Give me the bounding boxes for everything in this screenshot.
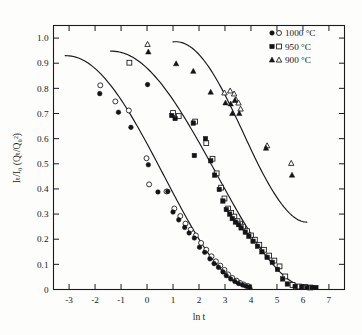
- data-point-950C-filled-4: [203, 136, 207, 140]
- data-point-1000C-filled-1: [116, 110, 121, 115]
- y-tick-label-1: 0.1: [37, 260, 49, 270]
- data-point-1000C-filled-15: [212, 261, 217, 266]
- data-point-950C-filled-19: [260, 250, 264, 254]
- data-point-950C-filled-26: [299, 285, 303, 289]
- y-tick-label-0: 0: [44, 285, 49, 295]
- data-point-1000C-filled-legend: [270, 31, 275, 36]
- data-point-1000C-filled-9: [182, 225, 187, 230]
- data-point-1000C-open-1: [113, 99, 118, 104]
- y-tick-label-9: 0.9: [37, 58, 49, 68]
- data-point-1000C-filled-14: [208, 257, 213, 262]
- data-point-1000C-filled-5: [156, 190, 161, 195]
- data-point-1000C-filled-2: [129, 125, 134, 130]
- x-tick-label-8: 5: [275, 295, 280, 305]
- y-tick-label-2: 0.2: [37, 234, 49, 244]
- data-point-950C-filled-27: [305, 285, 309, 289]
- x-tick-label-7: 4: [249, 295, 254, 305]
- data-point-1000C-filled-19: [228, 277, 233, 282]
- data-point-950C-filled-29: [314, 285, 318, 289]
- data-point-950C-filled-7: [217, 187, 221, 191]
- y-tick-label-6: 0.6: [37, 134, 49, 144]
- legend-label-950C: 950 °C: [285, 42, 311, 52]
- data-point-950C-filled-17: [251, 239, 255, 243]
- y-tick-label-5: 0.5: [37, 159, 49, 169]
- x-tick-label-1: -2: [91, 295, 99, 305]
- y-tick-label-8: 0.8: [37, 84, 49, 94]
- data-point-950C-filled-1: [173, 116, 177, 120]
- data-point-950C-filled-2: [191, 121, 195, 125]
- data-point-1000C-filled-6: [166, 189, 171, 194]
- data-point-950C-filled-8: [221, 199, 225, 203]
- legend-label-1000C: 1000 °C: [285, 28, 315, 38]
- data-point-950C-filled-15: [243, 230, 247, 234]
- data-point-950C-filled-9: [224, 207, 228, 211]
- y-tick-label-10: 1.0: [37, 33, 49, 43]
- data-point-1000C-open-2: [126, 108, 131, 113]
- data-point-950C-filled-legend: [270, 44, 274, 48]
- figure-container: -3-2-101234567 00.10.20.30.40.50.60.70.8…: [0, 0, 362, 335]
- data-point-1000C-filled-3: [145, 82, 150, 87]
- data-point-1000C-open-4: [147, 182, 152, 187]
- data-point-1000C-filled-17: [221, 270, 226, 275]
- y-axis-title: Iₜ/I₀ (Qₜ/Q₀²): [11, 133, 23, 183]
- data-point-1000C-filled-16: [216, 265, 221, 270]
- y-tick-label-4: 0.4: [37, 184, 49, 194]
- data-point-1000C-filled-0: [97, 91, 102, 96]
- data-point-950C-filled-14: [239, 226, 243, 230]
- data-point-1000C-filled-18: [224, 273, 229, 278]
- data-point-950C-filled-24: [285, 282, 289, 286]
- data-point-950C-filled-20: [265, 255, 269, 259]
- data-point-1000C-filled-24: [247, 285, 252, 290]
- data-point-950C-filled-25: [293, 284, 297, 288]
- scatter-chart: -3-2-101234567 00.10.20.30.40.50.60.70.8…: [0, 0, 362, 335]
- y-tick-label-3: 0.3: [37, 209, 49, 219]
- y-axis-title-text: Iₜ/I₀ (Qₜ/Q₀²): [11, 133, 23, 183]
- data-point-950C-filled-22: [275, 267, 279, 271]
- y-tick-label-7: 0.7: [37, 109, 49, 119]
- data-point-1000C-filled-11: [192, 236, 197, 241]
- data-point-950C-open-0: [127, 60, 132, 65]
- data-point-950C-filled-18: [255, 244, 259, 248]
- data-point-950C-open-legend: [277, 44, 282, 49]
- x-axis-title: ln t: [193, 311, 206, 322]
- data-point-950C-filled-6: [212, 173, 216, 177]
- data-point-1000C-open-3: [144, 156, 149, 161]
- data-point-950C-filled-10: [227, 212, 231, 216]
- data-point-1000C-filled-8: [176, 218, 181, 223]
- data-point-950C-filled-21: [270, 260, 274, 264]
- data-point-1000C-filled-10: [187, 231, 192, 236]
- data-point-1000C-open-0: [98, 83, 103, 88]
- data-point-950C-filled-3: [192, 153, 196, 157]
- data-point-950C-open-4: [204, 141, 209, 146]
- data-point-1000C-open-legend: [277, 31, 282, 36]
- data-point-1000C-filled-4: [146, 162, 151, 167]
- x-tick-label-6: 3: [223, 295, 228, 305]
- x-tick-label-0: -3: [65, 295, 73, 305]
- x-tick-label-2: -1: [117, 295, 125, 305]
- x-tick-label-9: 6: [301, 295, 306, 305]
- data-point-1000C-filled-13: [202, 250, 207, 255]
- x-tick-label-10: 7: [327, 295, 332, 305]
- x-tick-label-3: 0: [145, 295, 150, 305]
- data-point-950C-filled-16: [247, 234, 251, 238]
- x-tick-label-5: 2: [197, 295, 202, 305]
- legend-label-900C: 900 °C: [285, 55, 311, 65]
- data-point-1000C-filled-7: [171, 210, 176, 215]
- data-point-950C-filled-5: [208, 159, 212, 163]
- data-point-950C-filled-23: [280, 277, 284, 281]
- x-tick-label-4: 1: [171, 295, 176, 305]
- data-point-1000C-filled-12: [197, 245, 202, 250]
